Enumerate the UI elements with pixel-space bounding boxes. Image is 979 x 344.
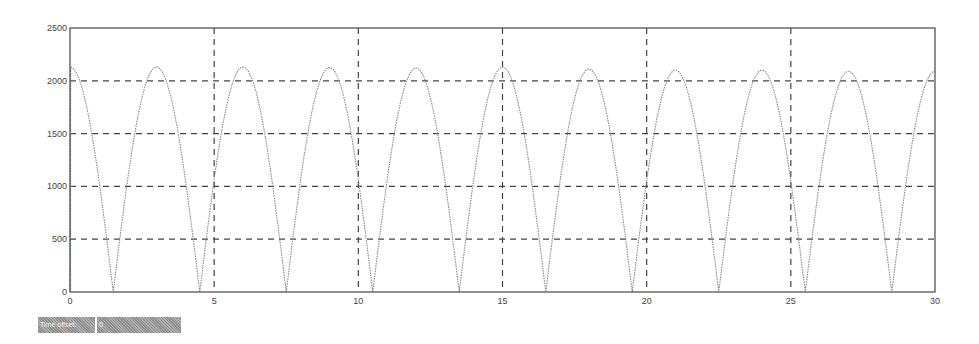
x-tick-label: 0 — [67, 296, 72, 306]
time-offset-value: 0 — [97, 317, 181, 333]
x-tick-label: 30 — [930, 296, 940, 306]
signal-trace — [70, 67, 935, 292]
time-offset-label: Time offset: — [38, 317, 95, 333]
x-tick-label: 10 — [353, 296, 363, 306]
x-tick-label: 5 — [212, 296, 217, 306]
x-tick-label: 20 — [642, 296, 652, 306]
y-tick-label: 0 — [62, 287, 67, 297]
x-axis-ticks: 051015202530 — [67, 296, 940, 306]
y-tick-label: 1500 — [47, 129, 67, 139]
y-tick-label: 2000 — [47, 76, 67, 86]
y-tick-label: 2500 — [47, 23, 67, 33]
signal-line — [70, 67, 935, 292]
x-tick-label: 25 — [786, 296, 796, 306]
scope-chart: 051015202530 05001000150020002500 — [0, 0, 979, 344]
y-axis-ticks: 05001000150020002500 — [47, 23, 67, 297]
y-tick-label: 1000 — [47, 181, 67, 191]
x-tick-label: 15 — [497, 296, 507, 306]
y-tick-label: 500 — [52, 234, 67, 244]
status-bar: Time offset: 0 — [38, 317, 181, 333]
